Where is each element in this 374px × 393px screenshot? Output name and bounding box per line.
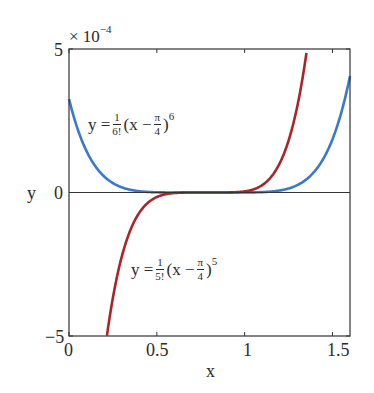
annotation-eq5: y = 15! (x − π4 )5 bbox=[131, 257, 217, 282]
eq6-exponent: 6 bbox=[169, 110, 175, 122]
xtick-label-0.5: 0.5 bbox=[146, 341, 169, 359]
ytick-label-top: 5 bbox=[54, 41, 63, 59]
curves-layer bbox=[69, 53, 350, 336]
eq6-pi-over-4: π4 bbox=[154, 112, 162, 137]
y-axis-label: y bbox=[27, 184, 36, 202]
eq5-lhs: y = bbox=[131, 260, 153, 280]
ytick-label-zero: 0 bbox=[54, 184, 63, 202]
eq5-den: 5! bbox=[155, 270, 164, 282]
eq6-four: 4 bbox=[155, 125, 161, 137]
eq5-num: 1 bbox=[156, 257, 164, 270]
multiplier-exponent: −4 bbox=[100, 23, 112, 35]
xtick-label-1: 1 bbox=[243, 341, 252, 359]
xtick-label-1.5: 1.5 bbox=[327, 341, 350, 359]
eq6-lhs: y = bbox=[88, 115, 110, 135]
eq5-pi: π bbox=[197, 257, 205, 270]
eq5-pi-over-4: π4 bbox=[197, 257, 205, 282]
xtick-label-0: 0 bbox=[64, 341, 73, 359]
curve-degree5 bbox=[107, 53, 307, 336]
multiplier-base: × 10 bbox=[69, 27, 100, 46]
x-axis-label: x bbox=[206, 362, 215, 380]
eq6-pi: π bbox=[154, 112, 162, 125]
y-multiplier-label: × 10−4 bbox=[69, 28, 112, 45]
eq5-mid: (x − bbox=[167, 260, 195, 280]
eq6-num: 1 bbox=[113, 112, 121, 125]
annotation-eq6: y = 16! (x − π4 )6 bbox=[88, 112, 174, 137]
eq5-fraction: 15! bbox=[155, 257, 164, 282]
ytick-label-bottom: −5 bbox=[45, 328, 64, 346]
eq5-four: 4 bbox=[198, 270, 204, 282]
eq6-fraction: 16! bbox=[112, 112, 121, 137]
eq5-exponent: 5 bbox=[212, 255, 218, 267]
eq6-mid: (x − bbox=[124, 115, 152, 135]
eq6-den: 6! bbox=[112, 125, 121, 137]
